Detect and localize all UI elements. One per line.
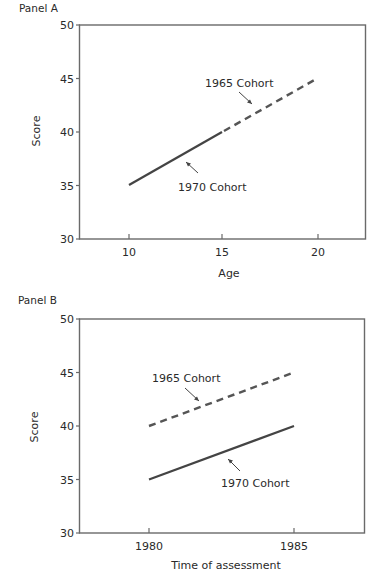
panel-a-ytick-40: 40 (60, 126, 74, 139)
panel-b-title: Panel B (18, 294, 57, 306)
panel-a-label-1970-cohort: 1970 Cohort (178, 181, 247, 194)
panel-a-ytick-35: 35 (60, 180, 74, 193)
panel-a-title: Panel A (19, 2, 59, 14)
panel-a-y-axis-title: Score (30, 115, 43, 146)
panel-b: Panel B 50 45 40 35 30 Score 1980 1985 T… (18, 294, 365, 572)
panel-a-x-axis-title: Age (218, 267, 240, 280)
panel-a-xtick-20: 20 (311, 246, 325, 259)
panel-a-xtick-15: 15 (215, 246, 229, 259)
panel-b-x-axis-title: Time of assessment (170, 559, 281, 572)
panel-b-ytick-35: 35 (60, 474, 74, 487)
panel-a-x-axis: 10 15 20 Age (122, 234, 325, 280)
panel-a-y-axis: 50 45 40 35 30 Score (30, 19, 80, 246)
panel-b-x-axis: 1980 1985 Time of assessment (135, 528, 308, 572)
panel-b-ytick-50: 50 (60, 313, 74, 326)
panel-a: Panel A 50 45 40 35 30 Score 10 15 20 Ag… (19, 2, 366, 280)
panel-b-xtick-1980: 1980 (135, 540, 163, 553)
panel-b-line-1970-cohort (149, 426, 294, 480)
panel-a-ytick-45: 45 (60, 73, 74, 86)
figure: Panel A 50 45 40 35 30 Score 10 15 20 Ag… (0, 0, 383, 577)
panel-b-label-1965-cohort: 1965 Cohort (152, 372, 221, 385)
panel-b-plot-frame (80, 319, 365, 533)
panel-a-line-1970-cohort (129, 132, 222, 185)
panel-a-label-1965-cohort: 1965 Cohort (205, 77, 274, 90)
panel-a-ytick-50: 50 (60, 19, 74, 32)
panel-a-xtick-10: 10 (122, 246, 136, 259)
panel-a-ytick-30: 30 (60, 233, 74, 246)
panel-b-label-1970-cohort: 1970 Cohort (221, 477, 290, 490)
panel-b-ytick-30: 30 (60, 527, 74, 540)
panel-a-plot-frame (80, 25, 366, 239)
panel-b-xtick-1985: 1985 (280, 540, 308, 553)
panel-b-y-axis-title: Score (28, 411, 41, 442)
panel-b-ytick-40: 40 (60, 420, 74, 433)
panel-b-y-axis: 50 45 40 35 30 Score (28, 313, 80, 540)
panel-b-ytick-45: 45 (60, 367, 74, 380)
